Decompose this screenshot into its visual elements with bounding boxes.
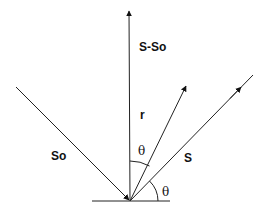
reflection-vector-diagram: S-So r So S θ θ: [0, 0, 267, 215]
vector-so: [16, 87, 129, 200]
label-so: So: [51, 149, 66, 163]
angle-arc-lower: [150, 181, 159, 201]
label-s: S: [184, 151, 192, 165]
vector-s-arrowhead: [230, 87, 241, 98]
label-theta-lower: θ: [162, 185, 169, 199]
vector-s-minus-so: [129, 11, 130, 201]
label-theta-upper: θ: [138, 144, 145, 158]
angle-arc-upper: [130, 161, 150, 166]
label-r: r: [140, 108, 145, 122]
label-s-minus-so: S-So: [139, 40, 166, 54]
